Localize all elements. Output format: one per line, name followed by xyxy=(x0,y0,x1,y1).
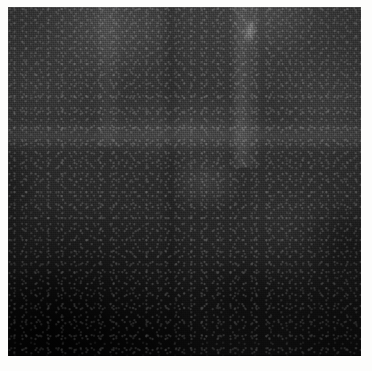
texture-mottling-layer xyxy=(8,7,361,356)
halftone-grain-layer xyxy=(8,7,361,356)
plate-edge-seam xyxy=(8,7,361,356)
texture-streak-layer xyxy=(8,7,361,356)
bright-flare-highlight xyxy=(238,11,261,52)
dark-texture-plate xyxy=(8,7,361,356)
speckle-noise-layer xyxy=(8,7,361,356)
image-canvas xyxy=(0,0,372,371)
vignette-layer xyxy=(8,7,361,356)
